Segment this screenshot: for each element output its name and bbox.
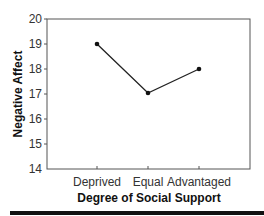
- y-tick-label: 16: [29, 112, 43, 126]
- y-tick-label: 17: [29, 87, 43, 101]
- line-chart: 20 19 18 17 16 15 14 Deprived Equal Adva…: [0, 0, 264, 216]
- data-point: [146, 91, 151, 96]
- x-axis-title: Degree of Social Support: [77, 191, 220, 205]
- x-tick-label: Deprived: [73, 175, 121, 189]
- y-tick-label: 18: [29, 62, 43, 76]
- y-tick-label: 19: [29, 37, 43, 51]
- x-tick-label: Advantaged: [167, 175, 231, 189]
- y-tick-label: 15: [29, 137, 43, 151]
- y-axis-title: Negative Affect: [11, 51, 25, 138]
- y-tick-label: 20: [29, 12, 43, 26]
- series-line: [97, 44, 199, 93]
- data-point: [95, 42, 100, 47]
- bottom-rule: [10, 211, 264, 215]
- data-point: [197, 67, 202, 72]
- y-tick-label: 14: [29, 162, 43, 176]
- x-tick-label: Equal: [133, 175, 164, 189]
